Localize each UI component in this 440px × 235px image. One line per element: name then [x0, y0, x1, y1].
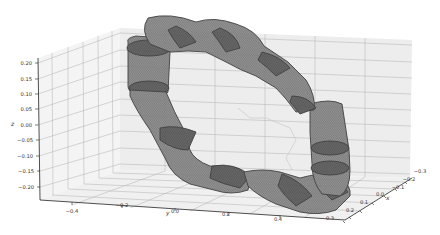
tube-cap [311, 161, 349, 175]
z-tick-label: −0.10 [17, 153, 33, 159]
y-axis-label: y [165, 209, 170, 217]
tube-cap [311, 141, 349, 155]
x-tick-label: 0.2 [346, 207, 354, 213]
x-tick-label: −0.3 [414, 168, 427, 174]
z-tick-label: 0.10 [20, 91, 32, 97]
y-tick-label: 0.4 [274, 216, 283, 222]
z-tick-label: −0.15 [18, 168, 34, 174]
y-tick-label: 0.2 [222, 211, 230, 217]
pane-left [38, 28, 120, 200]
x-tick-label: −0.2 [403, 176, 416, 182]
z-axis-ticks: 0.20 0.15 0.10 0.05 0.00 −0.05 −0.10 −0.… [10, 60, 40, 190]
x-tick-label: 0.3 [326, 215, 334, 221]
x-tick-label: 0.1 [360, 199, 368, 205]
x-tick-label: 0.0 [376, 191, 384, 197]
z-axis-label: z [10, 120, 15, 127]
z-tick-label: 0.05 [20, 106, 32, 112]
z-tick-label: −0.05 [17, 137, 33, 143]
z-tick-label: 0.15 [20, 76, 32, 82]
y-tick-label: 0.0 [171, 208, 179, 214]
z-tick-label: −0.20 [18, 184, 34, 190]
y-tick-label: −0.4 [66, 208, 79, 214]
3d-surface-plot: 0.20 0.15 0.10 0.05 0.00 −0.05 −0.10 −0.… [0, 0, 440, 235]
x-axis-label: x [385, 194, 390, 201]
y-tick-label: −0.2 [116, 202, 129, 208]
x-tick-label: −0.1 [392, 184, 405, 190]
z-tick-label: 0.00 [20, 122, 32, 128]
z-tick-label: 0.20 [20, 60, 32, 66]
